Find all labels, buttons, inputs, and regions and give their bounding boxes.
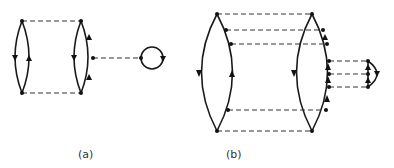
- arrow-up-icon: [322, 34, 328, 40]
- panel-label-b: (b): [226, 148, 242, 161]
- arrow-up-icon: [229, 70, 235, 77]
- vertex: [366, 59, 370, 63]
- vertex: [20, 19, 24, 23]
- vertex: [215, 12, 219, 16]
- vertex: [327, 85, 331, 89]
- diagram-a: [12, 19, 166, 95]
- arrow-up-icon: [26, 55, 32, 61]
- vertex: [321, 28, 325, 32]
- loop-b2-right-arc: [312, 14, 328, 131]
- diagram-b: [196, 12, 380, 133]
- vertex: [310, 129, 314, 133]
- tadpole-bubble: [141, 47, 163, 69]
- vertex: [226, 108, 230, 112]
- vertex: [79, 19, 83, 23]
- arrow-down-icon: [374, 71, 380, 77]
- panel-label-a: (a): [78, 148, 93, 161]
- vertex: [139, 56, 143, 60]
- vertex: [325, 42, 329, 46]
- arrow-down-icon: [71, 55, 77, 61]
- arrow-up-icon: [325, 76, 331, 83]
- vertex: [366, 85, 370, 89]
- vertex: [79, 91, 83, 95]
- arrow-down-icon: [160, 56, 166, 62]
- loop-b1-left-arc: [202, 14, 218, 131]
- vertex: [324, 108, 328, 112]
- arrow-up-icon: [86, 34, 92, 40]
- loop-b2-left-arc: [297, 14, 313, 131]
- vertex: [20, 91, 24, 95]
- vertex: [91, 56, 95, 60]
- arrow-up-icon: [325, 63, 331, 70]
- vertex: [366, 72, 370, 76]
- arrow-up-icon: [365, 77, 371, 83]
- feynman-diagrams: [0, 0, 394, 168]
- vertex: [224, 28, 228, 32]
- vertex: [327, 72, 331, 76]
- vertex: [310, 12, 314, 16]
- loop-a1-right-arc: [22, 21, 29, 93]
- vertex: [229, 42, 233, 46]
- loop-a2-right-arc: [81, 21, 88, 93]
- vertex: [215, 129, 219, 133]
- arrow-down-icon: [12, 55, 18, 61]
- arrow-up-icon: [365, 64, 371, 70]
- vertex: [327, 59, 331, 63]
